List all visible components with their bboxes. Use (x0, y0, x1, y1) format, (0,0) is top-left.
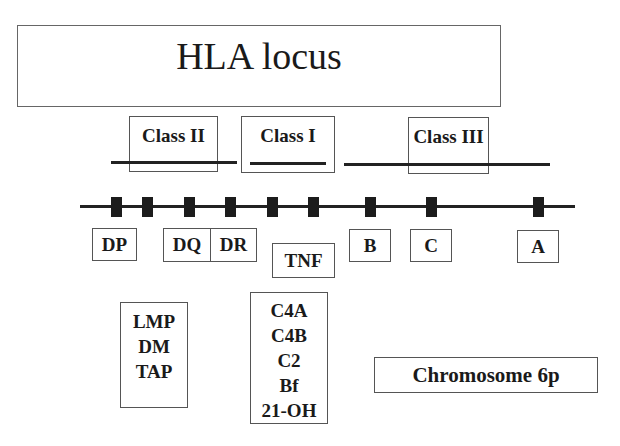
class-i-region-bar (344, 163, 550, 166)
class-ii-genes-box: LMP DM TAP (120, 302, 188, 408)
gene-lmp: LMP (133, 309, 175, 334)
class-ii-region-bar (111, 161, 237, 164)
gene-c4a: C4A (271, 298, 308, 323)
chromosome-label-box: Chromosome 6p (374, 357, 598, 393)
gene-label-dq: DQ (173, 234, 202, 256)
gene-marker (533, 197, 544, 217)
gene-marker (267, 197, 278, 217)
gene-marker (142, 197, 153, 217)
gene-label-b: B (364, 235, 377, 257)
gene-label-tnf: TNF (285, 250, 323, 272)
gene-tap: TAP (136, 359, 173, 384)
class-iii-label: Class I (260, 125, 315, 147)
class-iii-region-bar (250, 162, 326, 165)
gene-21-oh: 21-OH (262, 398, 317, 423)
gene-dm: DM (138, 334, 170, 359)
class-iii-genes-box: C4A C4B C2 Bf 21-OH (250, 292, 328, 424)
gene-label-c: C (424, 235, 438, 257)
class-ii-label: Class II (142, 125, 205, 147)
gene-box-a: A (517, 230, 559, 263)
gene-label-dr: DR (220, 234, 247, 256)
gene-marker (184, 197, 195, 217)
gene-marker (426, 197, 437, 217)
gene-label-a: A (531, 236, 545, 258)
gene-box-dr: DR (210, 228, 257, 262)
gene-box-tnf: TNF (272, 243, 335, 278)
diagram-title: HLA locus (18, 34, 500, 78)
gene-box-dq: DQ (163, 228, 211, 262)
gene-label-dp: DP (102, 234, 127, 256)
class-i-label: Class III (413, 126, 483, 148)
gene-bf: Bf (280, 373, 299, 398)
chromosome-label: Chromosome 6p (412, 363, 559, 388)
hla-locus-title-box: HLA locus (17, 25, 501, 107)
gene-marker (225, 197, 236, 217)
gene-c4b: C4B (271, 323, 307, 348)
gene-box-c: C (410, 229, 452, 262)
gene-c2: C2 (277, 348, 300, 373)
gene-box-b: B (349, 229, 391, 262)
gene-marker (365, 197, 376, 217)
gene-box-dp: DP (92, 228, 137, 261)
chromosome-line (80, 205, 575, 208)
gene-marker (308, 197, 319, 217)
gene-marker (111, 197, 122, 217)
